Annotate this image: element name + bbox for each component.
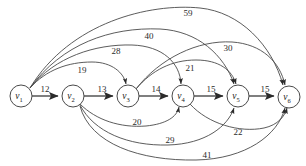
edge-group-upper-arcs bbox=[30, 7, 285, 89]
node-v6[interactable]: v6 bbox=[278, 86, 300, 108]
edge-weight-v4-v5: 15 bbox=[207, 84, 217, 94]
node-v3-subscript: 3 bbox=[126, 96, 129, 103]
edge-weight-v4-v6: 22 bbox=[234, 127, 243, 137]
edge-weight-v1-v6: 59 bbox=[184, 8, 194, 18]
edge-weight-v1-v2: 12 bbox=[41, 84, 50, 94]
edge-weight-v3-v4: 14 bbox=[152, 84, 162, 94]
edge-v2-v6 bbox=[80, 106, 285, 160]
graph-canvas: v1 v2 v3 v4 bbox=[0, 0, 306, 166]
edge-v1-v6 bbox=[30, 7, 283, 88]
edge-weight-v3-v5: 21 bbox=[186, 63, 195, 73]
edge-weight-v2-v3: 13 bbox=[98, 84, 108, 94]
node-v3[interactable]: v3 bbox=[117, 85, 139, 107]
node-v5-subscript: 5 bbox=[236, 96, 239, 103]
edge-weight-v2-v5: 29 bbox=[166, 135, 176, 145]
edge-v4-v6 bbox=[190, 104, 287, 129]
node-v4[interactable]: v4 bbox=[172, 85, 194, 107]
node-v1[interactable]: v1 bbox=[10, 85, 32, 107]
edge-weight-v3-v6: 30 bbox=[224, 43, 234, 53]
edge-weight-v2-v4: 20 bbox=[133, 117, 143, 127]
node-v5[interactable]: v5 bbox=[227, 85, 249, 107]
edge-group-lower-arcs bbox=[80, 104, 287, 160]
edge-v1-v5 bbox=[30, 29, 234, 88]
edge-weight-v1-v4: 28 bbox=[112, 46, 122, 56]
weighted-directed-graph-figure: v1 v2 v3 v4 bbox=[0, 0, 306, 166]
edge-weight-v5-v6: 15 bbox=[261, 84, 271, 94]
node-v2-subscript: 2 bbox=[71, 96, 74, 103]
edge-v2-v5 bbox=[80, 105, 234, 145]
edge-weight-v1-v5: 40 bbox=[145, 31, 155, 41]
node-v1-subscript: 1 bbox=[19, 96, 22, 103]
edge-weight-v2-v6: 41 bbox=[203, 150, 212, 160]
edge-weight-v1-v3: 19 bbox=[78, 65, 88, 75]
node-v2[interactable]: v2 bbox=[62, 85, 84, 107]
